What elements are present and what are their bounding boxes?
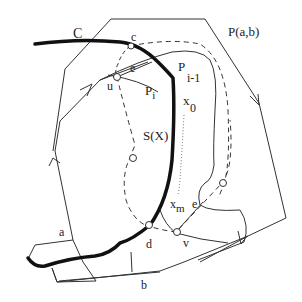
label-v: v bbox=[183, 236, 189, 250]
arrow-icon-left-lower bbox=[49, 158, 60, 166]
node-u bbox=[114, 74, 121, 81]
node-mid-dashed bbox=[130, 155, 137, 162]
path-left-edge bbox=[55, 62, 148, 240]
segment-d-b bbox=[131, 252, 132, 272]
label-SX: S(X) bbox=[143, 128, 168, 143]
label-x0: x0 bbox=[183, 93, 196, 115]
polygon-P-ab bbox=[52, 19, 286, 282]
node-d bbox=[146, 222, 153, 229]
segment-parallel-2 bbox=[198, 242, 244, 260]
dashed-curve-u-d bbox=[117, 77, 145, 225]
label-c: c bbox=[131, 30, 136, 44]
label-u: u bbox=[107, 79, 113, 93]
label-xm: xm bbox=[170, 197, 185, 214]
dotted-curve-x0 bbox=[178, 115, 184, 195]
label-d: d bbox=[146, 237, 152, 251]
label-C: C bbox=[73, 26, 82, 41]
label-b: b bbox=[141, 278, 147, 292]
label-P-i-minus-1: Pi-1 bbox=[178, 59, 200, 85]
label-e-top: e bbox=[130, 61, 135, 75]
diagram-canvas: C c e u Pi Pi-1 x0 S(X) P(a,b) xm e d v … bbox=[0, 0, 302, 302]
label-P-ab: P(a,b) bbox=[228, 24, 259, 39]
label-e-bottom: e bbox=[192, 197, 197, 211]
dashed-curve-right-node bbox=[222, 120, 231, 183]
thick-curve-C bbox=[28, 40, 174, 266]
label-a: a bbox=[59, 225, 65, 239]
node-v bbox=[174, 229, 181, 236]
curve-xm-v bbox=[160, 210, 228, 243]
label-P-i: Pi bbox=[145, 83, 155, 101]
node-right bbox=[220, 180, 227, 187]
